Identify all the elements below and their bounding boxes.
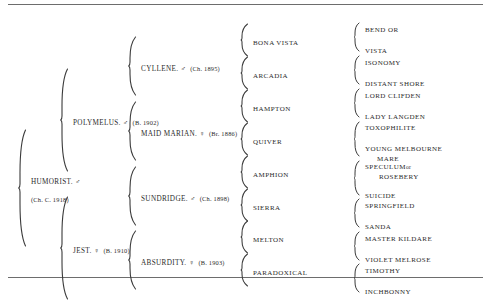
pedigree-node-amphion: AMPHION (240, 155, 345, 189)
horse-name: YOUNG MELBOURNE (365, 145, 442, 153)
horse-name: INCHBONNY (365, 288, 411, 296)
pedigree-chart: HUMORIST. ♂ (Ch. C. 1918) POLYMELUS. ♂ (… (0, 6, 491, 275)
pedigree-node-bend-or: BEND OR (365, 16, 484, 37)
brace-icon (60, 68, 69, 172)
horse-name: ABSURDITY. ♀ (141, 259, 194, 267)
horse-name: BONA VISTA (253, 39, 299, 47)
horse-detail: (Ch. 1895) (190, 65, 220, 72)
pedigree-node-speculum-or-rosebery: SPECULUMor ROSEBERY (365, 153, 484, 182)
horse-name: AMPHION (253, 171, 289, 179)
horse-name-alternate: ROSEBERY (365, 173, 484, 181)
horse-detail: (Ch. 1898) (200, 195, 230, 202)
pedigree-node-arcadia: ARCADIA (240, 56, 345, 90)
brace-icon (60, 196, 69, 300)
pedigree-node-label: SIERRA (253, 196, 345, 214)
brace-icon (352, 121, 361, 157)
pedigree-node-label: ARCADIA (253, 64, 345, 82)
pedigree-node-springfield: SPRINGFIELD (365, 192, 484, 213)
horse-detail: (B. 1910) (103, 247, 129, 254)
horse-detail: (Br. 1886) (209, 130, 237, 137)
pedigree-node-melton: MELTON (240, 220, 345, 254)
generation-3-column: CYLLENE. ♂ (Ch. 1895) MAID MARIAN. ♀ (Br… (128, 6, 238, 275)
horse-name: ISONOMY (365, 59, 401, 67)
pedigree-node-label: MELTON (253, 228, 345, 246)
horse-name: SPECULUM (365, 163, 406, 171)
top-divider-rule (8, 4, 483, 5)
brace-icon (240, 253, 249, 287)
pair-rows: TIMOTHY INCHBONNY (365, 257, 484, 299)
pedigree-node-sundridge: SUNDRIDGE. ♂ (Ch. 1898) (128, 166, 238, 226)
pedigree-node-cyllene: CYLLENE. ♂ (Ch. 1895) (128, 36, 238, 96)
horse-name: TOXOPHILITE (365, 124, 416, 132)
pedigree-node-maid-marian: MAID MARIAN. ♀ (Br. 1886) (128, 101, 238, 161)
horse-name: ARCADIA (253, 72, 288, 80)
generation-4-column: BONA VISTA ARCADIA HAMPTON (240, 6, 345, 275)
brace-icon (352, 55, 361, 85)
horse-name: HAMPTON (253, 105, 291, 113)
horse-name: MASTER KILDARE (365, 235, 432, 243)
horse-detail: (B. 1903) (198, 259, 224, 266)
brace-icon (240, 188, 249, 222)
brace-icon (352, 263, 361, 293)
horse-name: LORD CLIFDEN (365, 92, 421, 100)
pedigree-node-label: SUNDRIDGE. ♂ (Ch. 1898) (141, 187, 238, 205)
horse-name: SUNDRIDGE. ♂ (141, 195, 196, 203)
brace-icon (240, 23, 249, 57)
brace-icon (128, 101, 137, 161)
generation-5-column: BEND OR VISTA ISONOMY DISTANT SHORE (352, 6, 484, 275)
pedigree-node-paradoxical: PARADOXICAL (240, 253, 345, 287)
pedigree-node-label: BONA VISTA (253, 31, 345, 49)
brace-icon (352, 22, 361, 52)
pedigree-node-lord-clifden: LORD CLIFDEN (365, 82, 484, 103)
horse-name: MAID MARIAN. ♀ (141, 130, 205, 138)
pedigree-node-bona-vista: BONA VISTA (240, 23, 345, 57)
brace-icon (128, 230, 137, 290)
brace-icon (240, 122, 249, 156)
pedigree-node-absurdity: ABSURDITY. ♀ (B. 1903) (128, 230, 238, 290)
pedigree-node-label: AMPHION (253, 163, 345, 181)
pedigree-node-label: PARADOXICAL (253, 261, 345, 279)
brace-icon (128, 166, 137, 226)
horse-name: QUIVER (253, 138, 282, 146)
brace-icon (352, 198, 361, 228)
brace-icon (240, 56, 249, 90)
horse-name: MELTON (253, 236, 284, 244)
brace-icon (18, 129, 27, 247)
pedigree-node-label: MAID MARIAN. ♀ (Br. 1886) (141, 122, 238, 140)
horse-name: TIMOTHY (365, 267, 400, 275)
pedigree-node-label: QUIVER (253, 130, 345, 148)
brace-icon (240, 89, 249, 123)
pedigree-node-label: CYLLENE. ♂ (Ch. 1895) (141, 57, 238, 75)
pedigree-node-label: HAMPTON (253, 97, 345, 115)
horse-name: CYLLENE. ♂ (141, 65, 186, 73)
pedigree-node-master-kildare: MASTER KILDARE (365, 225, 484, 246)
pedigree-node-hampton: HAMPTON (240, 89, 345, 123)
brace-icon (240, 155, 249, 189)
horse-name-alternate-conjunction: or (406, 164, 411, 170)
horse-name: PARADOXICAL (253, 269, 307, 277)
pedigree-node-quiver: QUIVER (240, 122, 345, 156)
horse-name: SIERRA (253, 204, 281, 212)
pedigree-node-timothy: TIMOTHY (365, 257, 484, 278)
pedigree-node-toxophilite: TOXOPHILITE (365, 114, 484, 135)
brace-icon (240, 220, 249, 254)
pedigree-node-label: ABSURDITY. ♀ (B. 1903) (141, 251, 238, 269)
horse-name: POLYMELUS. ♂ (73, 119, 129, 127)
pedigree-node-isonomy: ISONOMY (365, 49, 484, 70)
horse-name: SPRINGFIELD (365, 202, 415, 210)
horse-name: BEND OR (365, 26, 399, 34)
horse-name: JEST. ♀ (73, 247, 99, 255)
pedigree-node-sierra: SIERRA (240, 188, 345, 222)
brace-icon (352, 160, 361, 196)
brace-icon (128, 36, 137, 96)
pedigree-pair-timothy-inchbonny: TIMOTHY INCHBONNY (352, 257, 484, 299)
pedigree-node-inchbonny: INCHBONNY (365, 278, 484, 299)
